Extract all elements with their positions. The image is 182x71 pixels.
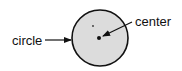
speck-dot [92,25,94,27]
center-label: center [135,14,172,29]
circle-label: circle [12,33,42,48]
circle-diagram: circle center [0,0,182,71]
center-point [97,36,101,40]
